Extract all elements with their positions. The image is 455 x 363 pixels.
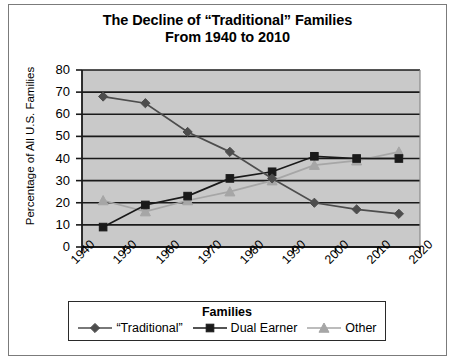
data-point-square <box>206 324 214 332</box>
legend-entries: “Traditional”Dual EarnerOther <box>69 321 385 335</box>
y-tick-label: 50 <box>44 128 70 143</box>
data-point-square <box>353 155 361 163</box>
legend-label: Dual Earner <box>231 321 298 335</box>
legend-label: Other <box>345 321 376 335</box>
data-point-square <box>226 175 234 183</box>
y-tick-label: 80 <box>44 62 70 77</box>
legend-entry: “Traditional” <box>77 321 182 335</box>
y-tick-label: 40 <box>44 151 70 166</box>
y-tick-label: 20 <box>44 195 70 210</box>
chart-legend: Families “Traditional”Dual EarnerOther <box>68 301 386 341</box>
data-point-square <box>311 152 319 160</box>
data-point-square <box>99 223 107 231</box>
legend-entry: Dual Earner <box>192 321 298 335</box>
legend-label: “Traditional” <box>116 321 182 335</box>
y-tick-label: 70 <box>44 84 70 99</box>
legend-title: Families <box>69 305 385 319</box>
legend-swatch-diamond <box>77 321 113 335</box>
legend-swatch-square <box>192 321 228 335</box>
y-tick-label: 0 <box>44 239 70 254</box>
chart-figure: The Decline of “Traditional” Families Fr… <box>0 0 455 363</box>
y-tick-label: 10 <box>44 217 70 232</box>
legend-entry: Other <box>306 321 376 335</box>
data-point-square <box>395 155 403 163</box>
legend-swatch-triangle <box>306 321 342 335</box>
y-tick-label: 60 <box>44 106 70 121</box>
data-point-square <box>142 201 150 209</box>
y-tick-label: 30 <box>44 173 70 188</box>
data-point-square <box>184 192 192 200</box>
data-point-diamond <box>91 323 100 332</box>
